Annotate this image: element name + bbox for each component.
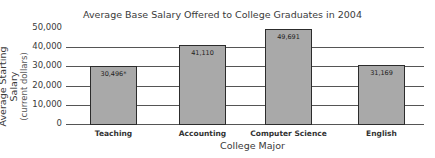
y-tick-30000: 30,000 xyxy=(28,60,62,70)
y-axis-label-main: Average Starting Salary xyxy=(0,47,19,127)
x-tick-label: English xyxy=(327,129,435,138)
y-tick-0: 0 xyxy=(28,118,62,128)
gridline-40000 xyxy=(66,47,424,48)
y-tick-10000: 10,000 xyxy=(28,99,62,109)
bar-computer-science: 49,691 xyxy=(265,29,312,125)
bar-value-label: 49,691 xyxy=(266,33,311,41)
bar-value-label: 41,110 xyxy=(180,49,225,57)
y-tick-40000: 40,000 xyxy=(28,41,62,51)
chart-title: Average Base Salary Offered to College G… xyxy=(0,9,435,20)
bar-teaching: 30,496* xyxy=(90,66,137,125)
bar-value-label: 31,169 xyxy=(359,69,404,77)
y-tick-50000: 50,000 xyxy=(28,22,62,32)
bar-english: 31,169 xyxy=(358,65,405,125)
bar-accounting: 41,110 xyxy=(179,45,226,125)
bar-value-label: 30,496* xyxy=(91,70,136,78)
y-axis-label: Average Starting Salary (current dollars… xyxy=(0,32,30,142)
x-axis-label: College Major xyxy=(0,140,435,151)
y-tick-20000: 20,000 xyxy=(28,80,62,90)
